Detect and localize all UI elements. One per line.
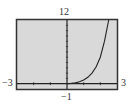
graph-window [0, 0, 133, 107]
